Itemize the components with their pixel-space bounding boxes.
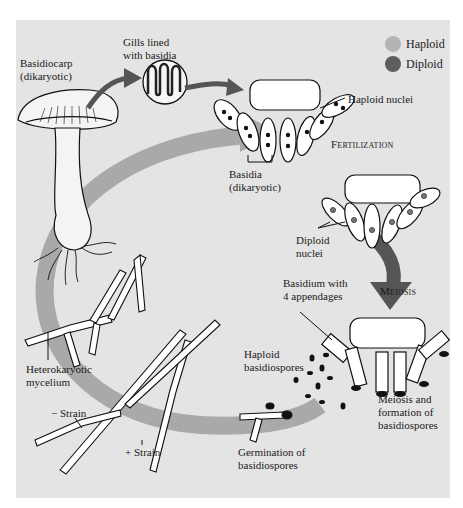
label-haploid-basidiospores: Haploid basidiospores xyxy=(244,348,304,374)
legend-diploid: Diploid xyxy=(385,56,443,72)
label-meiosis-formation: Meiosis and formation of basidiospores xyxy=(378,393,438,432)
basidia-cluster-meiosis-icon xyxy=(322,318,450,397)
legend-haploid-label: Haploid xyxy=(406,37,445,52)
label-meiosis: Meiosis xyxy=(380,285,416,298)
label-germination: Germination of basidiospores xyxy=(238,446,306,472)
label-fertilization: Fertilization xyxy=(331,138,393,151)
label-gills: Gills lined with basidia xyxy=(123,36,176,62)
label-basidiocarp: Basidiocarp (dikaryotic) xyxy=(20,57,73,83)
gills-closeup-icon xyxy=(143,60,187,104)
haploid-swatch-icon xyxy=(385,36,401,52)
label-heterokaryotic-mycelium: Heterokaryotic mycelium xyxy=(26,363,92,389)
legend-haploid: Haploid xyxy=(385,36,445,52)
label-plus-strain: + Strain xyxy=(125,446,160,459)
pointer-basidium xyxy=(300,312,332,340)
label-basidium-appendages: Basidium with 4 appendages xyxy=(283,277,347,303)
label-minus-strain: − Strain xyxy=(51,407,86,420)
diploid-swatch-icon xyxy=(385,56,401,72)
label-haploid-nuclei: Haploid nuclei xyxy=(348,93,413,106)
label-diploid-nuclei: Diploid nuclei xyxy=(296,234,330,260)
label-basidia: Basidia (dikaryotic) xyxy=(229,168,281,194)
legend-diploid-label: Diploid xyxy=(406,57,443,72)
